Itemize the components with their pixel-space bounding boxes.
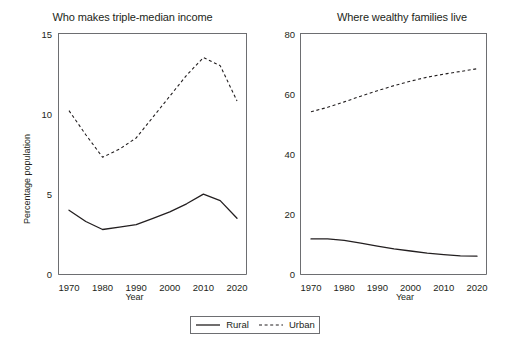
chart-panel-right: Where wealthy families live Percentage o… <box>255 0 511 310</box>
y-tick-label-left-5: 5 <box>26 189 52 200</box>
chart-legend: Rural Urban <box>190 316 320 334</box>
y-tick-label-left-0: 0 <box>26 269 52 280</box>
x-axis-label-right: Year <box>255 292 511 302</box>
y-tick-label-right-0: 0 <box>269 269 295 280</box>
chart-title-right: Where wealthy families live <box>255 11 511 23</box>
y-tick-label-left-10: 10 <box>26 109 52 120</box>
x-axis-label-left: Year <box>0 292 255 302</box>
axis-spines-right <box>301 33 487 275</box>
solid-line-icon <box>195 321 221 329</box>
legend-entry-rural: Rural <box>195 320 249 330</box>
y-tick-label-right-40: 40 <box>269 149 295 160</box>
plot-area-left <box>58 33 247 275</box>
series-rural-line-left <box>69 194 237 229</box>
legend-entry-urban: Urban <box>258 320 315 330</box>
plot-svg-right <box>300 33 487 275</box>
axis-spines-left <box>59 33 247 275</box>
series-rural-line-right <box>311 239 477 256</box>
plot-svg-left <box>58 33 247 275</box>
chart-panel-left: Who makes triple-median income Percentag… <box>0 0 255 310</box>
y-tick-label-right-20: 20 <box>269 209 295 220</box>
series-urban-line-right <box>311 69 477 112</box>
chart-title-left: Who makes triple-median income <box>0 11 255 23</box>
y-tick-label-right-80: 80 <box>269 29 295 40</box>
y-axis-label-left: Percentage population <box>22 134 32 224</box>
legend-label-urban: Urban <box>289 320 315 330</box>
series-urban-line-left <box>69 58 237 158</box>
dashed-line-icon <box>258 321 284 329</box>
x-tick-label-left-2020: 2020 <box>216 282 258 293</box>
legend-label-rural: Rural <box>226 320 249 330</box>
y-tick-label-left-15: 15 <box>26 29 52 40</box>
y-tick-label-right-60: 60 <box>269 89 295 100</box>
x-tick-label-right-2020: 2020 <box>456 282 498 293</box>
plot-area-right <box>300 33 487 275</box>
